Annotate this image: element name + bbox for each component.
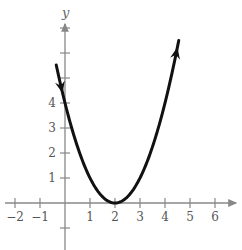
y-tick-label: 2 bbox=[48, 146, 56, 160]
x-tick-label: 4 bbox=[161, 210, 169, 224]
x-tick-label: −1 bbox=[31, 210, 49, 224]
ticks bbox=[15, 28, 215, 228]
parabola-curve bbox=[55, 40, 180, 203]
y-tick-label: 1 bbox=[48, 171, 56, 185]
y-axis-label: y bbox=[61, 5, 70, 20]
x-tick-label: 3 bbox=[136, 210, 144, 224]
parabola-path bbox=[56, 40, 179, 203]
chart: −2−11234561234 y bbox=[0, 0, 242, 250]
y-tick-label: 3 bbox=[48, 121, 56, 135]
x-tick-label: 6 bbox=[211, 210, 219, 224]
x-tick-label: −2 bbox=[6, 210, 24, 224]
x-tick-label: 1 bbox=[86, 210, 94, 224]
y-tick-label: 4 bbox=[48, 96, 56, 110]
tick-labels: −2−11234561234 bbox=[6, 96, 219, 224]
x-tick-label: 2 bbox=[111, 210, 119, 224]
x-tick-label: 5 bbox=[186, 210, 194, 224]
